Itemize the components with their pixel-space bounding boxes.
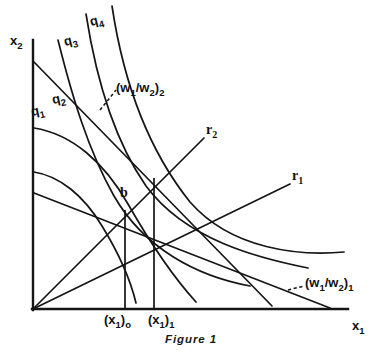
- tick-label-x1-zero: (x1)o: [104, 312, 131, 330]
- isoquant-labels-group: q1 q2 q3 q4: [30, 11, 106, 122]
- y-axis-label: x2: [10, 33, 23, 51]
- figure-caption: Figure 1: [0, 333, 382, 345]
- droplines-group: [125, 178, 154, 309]
- price-ratio-label-1: (w1/w2)1: [305, 275, 354, 293]
- price-ratio-label-2: (w1/w2)2: [116, 80, 164, 98]
- ray-label-r2: r2: [206, 122, 217, 140]
- isoquant-label-q1: q1: [30, 101, 47, 122]
- isoquant-plot-svg: x2 x1 q1 q2 q3 q4 r2: [0, 0, 382, 357]
- tick-labels-group: (x1)o (x1)1: [104, 312, 175, 330]
- isoquant-label-q4: q4: [88, 11, 106, 32]
- ray-label-r1: r1: [292, 168, 303, 186]
- isocost-lines-group: [34, 62, 330, 308]
- isoquant-label-q3: q3: [62, 31, 79, 52]
- isocost-line-w2: [34, 62, 272, 306]
- ray-labels-group: r2 r1: [206, 122, 303, 186]
- point-labels-group: b: [120, 185, 128, 200]
- expansion-ray-r2: [33, 138, 204, 309]
- expansion-rays-group: [33, 138, 290, 309]
- price-ratio-labels-group: (w1/w2)2 (w1/w2)1: [116, 80, 354, 293]
- tick-label-x1-one: (x1)1: [148, 312, 175, 330]
- point-label-b: b: [120, 185, 128, 200]
- isoquant-curve-q2: [34, 128, 196, 302]
- isoquant-curves-group: [34, 6, 344, 303]
- figure-1-diagram: x2 x1 q1 q2 q3 q4 r2: [0, 0, 382, 357]
- isoquant-curve-q5: [112, 6, 344, 253]
- leader-dash-w1: [288, 286, 304, 290]
